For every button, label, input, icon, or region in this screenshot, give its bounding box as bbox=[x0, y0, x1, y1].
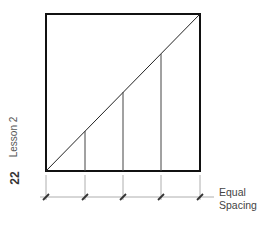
label-line-2: Spacing bbox=[219, 199, 257, 212]
label-line-1: Equal bbox=[219, 186, 257, 199]
equal-spacing-label: Equal Spacing bbox=[219, 186, 257, 212]
